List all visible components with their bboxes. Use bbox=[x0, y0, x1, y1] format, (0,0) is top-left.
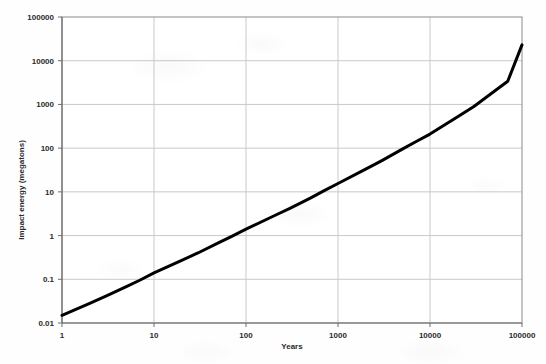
y-tick-label: 10 bbox=[45, 188, 54, 197]
impact-energy-chart: 0.010.1110100100010000100000 11010010001… bbox=[0, 0, 546, 364]
x-tick-label: 1000 bbox=[329, 331, 347, 340]
x-axis-title: Years bbox=[281, 342, 303, 351]
y-axis-title: Impact energy (megatons) bbox=[17, 140, 26, 240]
x-tick-label: 10 bbox=[150, 331, 159, 340]
x-tick-label: 10000 bbox=[419, 331, 442, 340]
y-tick-label: 100 bbox=[41, 144, 55, 153]
y-tick-label: 1 bbox=[50, 232, 55, 241]
plot-area-background bbox=[62, 17, 522, 323]
y-axis-tick-labels: 0.010.1110100100010000100000 bbox=[27, 13, 54, 328]
y-tick-label: 0.01 bbox=[38, 319, 54, 328]
y-tick-label: 1000 bbox=[36, 100, 54, 109]
x-tick-label: 100000 bbox=[509, 331, 536, 340]
y-tick-label: 0.1 bbox=[43, 275, 55, 284]
x-axis-tick-labels: 110100100010000100000 bbox=[60, 331, 536, 340]
y-tick-label: 10000 bbox=[32, 57, 55, 66]
chart-plot-svg: 0.010.1110100100010000100000 11010010001… bbox=[0, 0, 546, 364]
x-tick-label: 1 bbox=[60, 331, 65, 340]
x-tick-label: 100 bbox=[239, 331, 253, 340]
y-tick-label: 100000 bbox=[27, 13, 54, 22]
